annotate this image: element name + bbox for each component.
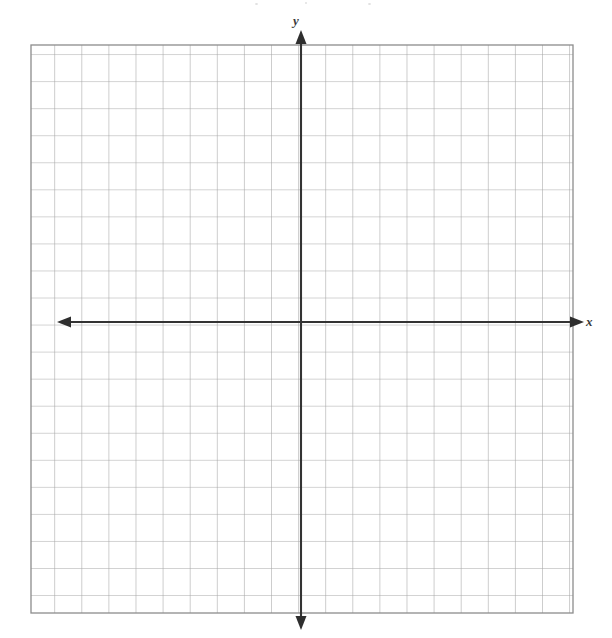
page-root: y x — [0, 0, 612, 638]
coordinate-grid-figure: y x — [0, 0, 612, 638]
x-axis-label: x — [586, 315, 602, 328]
scan-artifact — [255, 3, 258, 5]
scan-artifact — [305, 2, 307, 4]
y-axis-label: y — [288, 14, 304, 27]
scan-artifact — [368, 3, 371, 5]
coordinate-plane-svg — [0, 0, 612, 638]
